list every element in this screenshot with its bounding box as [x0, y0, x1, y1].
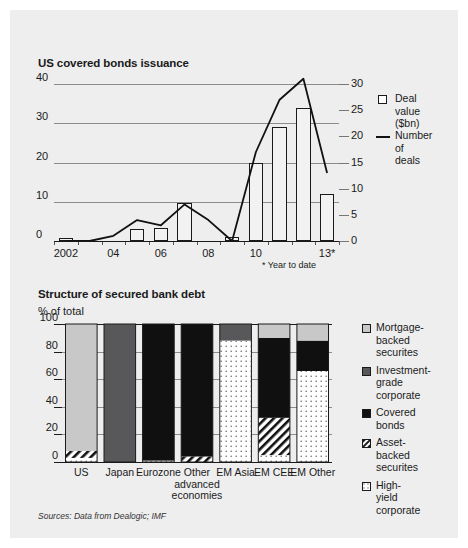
chart2-legend-label: Covered bonds [376, 406, 416, 431]
source-note: Sources: Data from Dealogic; IMF [38, 511, 166, 521]
chart2-bar-segment [297, 371, 329, 462]
legend-swatch-icon [362, 367, 371, 376]
chart2-bar-segment [181, 324, 213, 457]
chart2-bar-segment [258, 324, 290, 338]
legend-swatch-icon [362, 439, 371, 448]
chart2-bar-segment [297, 341, 329, 371]
chart2-bar-segment [104, 324, 136, 462]
chart2-bar-segment [143, 324, 175, 461]
chart2-bar-segment [220, 324, 252, 341]
chart2-bar-segment [220, 341, 252, 462]
chart2-legend-label: Mortgage- backed securites [376, 321, 424, 359]
chart2-bar-segment [258, 338, 290, 418]
legend-swatch-icon [362, 482, 371, 491]
chart2-category-label: EM Other [285, 467, 340, 479]
chart2-bar-segment [258, 455, 290, 462]
chart2-bar-segment [258, 418, 290, 455]
chart2-bar-segment [66, 451, 98, 458]
legend-swatch-icon [362, 324, 371, 333]
chart2-legend-label: Investment- grade corporate [376, 364, 431, 402]
chart2-bar-segment [66, 324, 98, 451]
chart2-legend-label: High-yield corporate [376, 479, 420, 517]
legend-swatch-icon [362, 409, 371, 418]
chart2-baseline [62, 462, 332, 463]
chart2-legend-label: Asset- backed securites [376, 436, 418, 474]
chart2-bar-segment [297, 324, 329, 341]
figure-panel: US covered bonds issuance 403020100 3025… [10, 10, 458, 538]
